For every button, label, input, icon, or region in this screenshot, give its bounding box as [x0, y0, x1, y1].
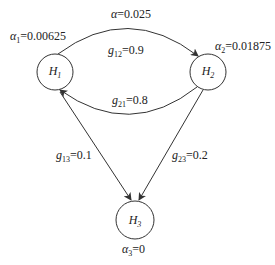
alpha-h2-label: α2=0.01875	[215, 40, 271, 55]
node-h2-label: H2	[202, 65, 215, 80]
edge-g21-label: g21=0.8	[112, 94, 148, 109]
edge-g21-sub: 21	[118, 100, 126, 109]
edge-g23-value: =0.2	[186, 148, 208, 162]
edge-g21-value: =0.8	[126, 93, 148, 107]
node-h3-label: H3	[129, 214, 142, 229]
alpha-h2-value: =0.01875	[225, 39, 271, 53]
alpha-h3-value: =0	[132, 242, 145, 256]
edge-g13-value: =0.1	[70, 148, 92, 162]
node-h1-label: H1	[49, 65, 62, 80]
node-h3-sub: 3	[137, 220, 141, 229]
edge-g23-sub: 23	[178, 155, 186, 164]
node-h2-sub: 2	[210, 71, 214, 80]
edge-g12-sub: 12	[114, 50, 122, 59]
alpha-h1-value: =0.00625	[20, 29, 66, 43]
alpha-h3-label: α3=0	[122, 243, 145, 258]
edge-g12-value: =0.9	[122, 43, 144, 57]
edge-g13-sub: 13	[62, 155, 70, 164]
node-h3-symbol: H	[129, 213, 138, 227]
global-alpha-label: α=0.025	[111, 8, 151, 20]
edge-g12-label: g12=0.9	[108, 44, 144, 59]
node-h1-sub: 1	[57, 71, 61, 80]
node-h1-symbol: H	[49, 64, 58, 78]
node-h2-symbol: H	[202, 64, 211, 78]
alpha-h1-label: α1=0.00625	[10, 30, 66, 45]
edge-g23-label: g23=0.2	[172, 149, 208, 164]
global-alpha-value: =0.025	[117, 7, 151, 21]
edge-g13-label: g13=0.1	[56, 149, 92, 164]
edge-h2-h3	[139, 90, 203, 200]
